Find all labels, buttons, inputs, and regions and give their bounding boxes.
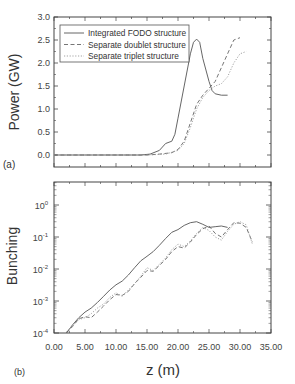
legend: Integrated FODO structureSeparate double… (60, 25, 189, 62)
y-tick-label: 0.5 (37, 127, 50, 137)
y-tick-label: 3.0 (37, 12, 50, 22)
y-tick-label: 2.5 (37, 35, 50, 45)
y-tick-label: 10-4 (33, 328, 49, 339)
power-plot: 0.00.51.01.52.02.53.0 Integrated FODO st… (3, 12, 271, 170)
x-tick-label: 15.00 (136, 342, 159, 352)
x-tick-label: 30.00 (229, 342, 252, 352)
y-tick-label: 10-2 (33, 264, 49, 275)
y-tick-label: 0.0 (37, 150, 50, 160)
series-line (66, 223, 252, 333)
y-tick-label: 10-1 (33, 232, 49, 243)
bunching-plot: 10-410-310-210-11000.005.0010.0015.0020.… (4, 182, 282, 378)
panel-a-label: (a) (3, 159, 15, 170)
legend-label: Integrated FODO structure (88, 28, 187, 38)
x-tick-label: 0.00 (45, 342, 63, 352)
y-tick-label: 10-3 (33, 296, 49, 307)
series-line (54, 52, 246, 156)
y-tick-label: 1.5 (37, 81, 50, 91)
x-tick-label: 25.00 (198, 342, 221, 352)
legend-label: Separate triplet structure (88, 51, 179, 61)
panel-b-label: (b) (14, 367, 25, 377)
bunching-plot-frame (54, 182, 271, 333)
series-line (66, 222, 227, 333)
y-tick-label: 2.0 (37, 58, 50, 68)
bunching-axis-title: Bunching (4, 227, 20, 285)
power-axis-title: Power (GW) (6, 54, 22, 131)
bunching-plot-series (66, 222, 252, 333)
y-tick-label: 1.0 (37, 104, 50, 114)
figure: 0.00.51.01.52.02.53.0 Integrated FODO st… (0, 0, 295, 384)
z-axis-title: z (m) (146, 361, 180, 378)
x-tick-label: 20.00 (167, 342, 190, 352)
x-tick-label: 10.00 (105, 342, 128, 352)
x-tick-label: 35.00 (260, 342, 283, 352)
x-tick-label: 5.00 (76, 342, 94, 352)
y-tick-label: 100 (35, 200, 49, 211)
legend-label: Separate doublet structure (88, 40, 186, 50)
